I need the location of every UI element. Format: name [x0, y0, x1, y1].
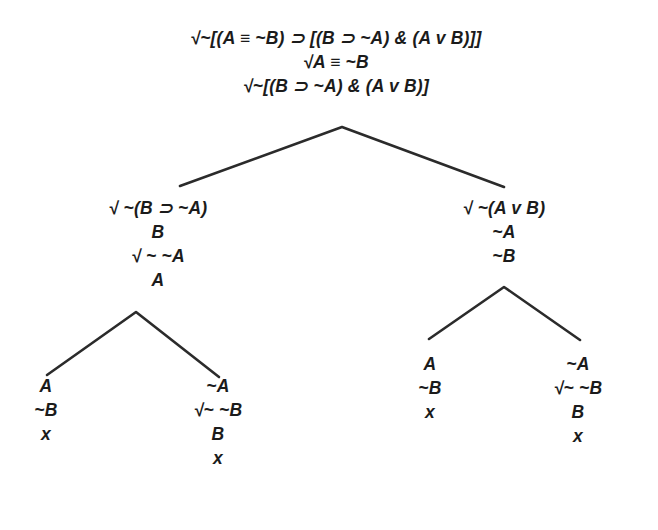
leaf-3: A ~B x [418, 352, 441, 424]
left-branch-line-2: B [109, 220, 208, 244]
leaf-1-line-1: A [34, 374, 57, 398]
leaf-4-line-1: ~A [554, 352, 603, 376]
left-branch-line-1: √ ~(B ⊃ ~A) [109, 196, 208, 220]
leaf-1-line-2: ~B [34, 398, 57, 422]
leaf-1: A ~B x [34, 374, 57, 446]
right-branch: √ ~(A v B) ~A ~B [463, 196, 545, 268]
leaf-2: ~A √~ ~B B x [194, 374, 243, 470]
root-line-1: √~[(A ≡ ~B) ⊃ [(B ⊃ ~A) & (A v B)]] [190, 26, 481, 50]
leaf-4-line-3: B [554, 400, 603, 424]
leaf-2-line-2: √~ ~B [194, 398, 243, 422]
fork-root-line [180, 127, 504, 187]
leaf-4: ~A √~ ~B B x [554, 352, 603, 448]
leaf-2-line-3: B [194, 422, 243, 446]
leaf-4-line-2: √~ ~B [554, 376, 603, 400]
right-branch-line-1: √ ~(A v B) [463, 196, 545, 220]
leaf-2-line-1: ~A [194, 374, 243, 398]
right-branch-line-3: ~B [463, 244, 545, 268]
root-line-2: √A ≡ ~B [190, 50, 481, 74]
fork-right-line [429, 287, 580, 340]
left-branch-line-3: √ ~ ~A [109, 244, 208, 268]
leaf-1-closure-mark: x [34, 422, 57, 446]
leaf-2-closure-mark: x [194, 446, 243, 470]
left-branch: √ ~(B ⊃ ~A) B √ ~ ~A A [109, 196, 208, 292]
left-branch-line-4: A [109, 268, 208, 292]
fork-left-line [47, 312, 219, 377]
leaf-3-line-2: ~B [418, 376, 441, 400]
root-trunk: √~[(A ≡ ~B) ⊃ [(B ⊃ ~A) & (A v B)]] √A ≡… [190, 26, 481, 98]
leaf-3-line-1: A [418, 352, 441, 376]
root-line-3: √~[(B ⊃ ~A) & (A v B)] [190, 74, 481, 98]
truth-tree-diagram: √~[(A ≡ ~B) ⊃ [(B ⊃ ~A) & (A v B)]] √A ≡… [0, 0, 658, 530]
leaf-4-closure-mark: x [554, 424, 603, 448]
leaf-3-closure-mark: x [418, 400, 441, 424]
right-branch-line-2: ~A [463, 220, 545, 244]
